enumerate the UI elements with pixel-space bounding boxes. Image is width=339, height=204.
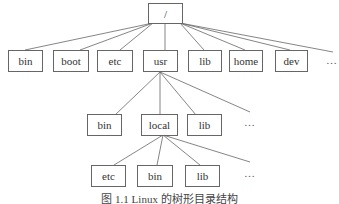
level3-ellipsis: … [244, 167, 255, 179]
node-etc: etc [97, 50, 133, 72]
node-local-bin: bin [137, 165, 173, 187]
figure-caption: 图 1.1 Linux 的树形目录结构 [0, 190, 339, 204]
node-usr-local: local [141, 114, 178, 136]
level1-ellipsis: … [326, 54, 337, 66]
node-lib: lib [188, 50, 222, 72]
directory-tree-diagram: / bin boot etc usr lib home dev … bin lo… [0, 0, 339, 204]
node-usr-lib: lib [187, 114, 222, 136]
node-bin: bin [8, 50, 43, 72]
level2-ellipsis: … [244, 116, 255, 128]
node-usr: usr [143, 50, 178, 72]
node-local-etc: etc [91, 165, 126, 187]
node-dev: dev [275, 50, 308, 72]
node-root: / [148, 3, 183, 24]
node-boot: boot [53, 50, 89, 72]
node-home: home [229, 50, 263, 72]
node-local-lib: lib [185, 165, 220, 187]
node-usr-bin: bin [87, 114, 122, 136]
